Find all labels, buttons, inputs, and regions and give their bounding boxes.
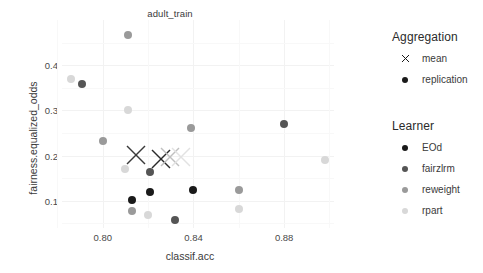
- gridline-vertical-minor: [239, 20, 240, 228]
- data-point-replication: [99, 137, 107, 145]
- dot-marker-icon: [394, 208, 416, 214]
- data-point-replication: [187, 124, 195, 132]
- plot-panel: [62, 20, 334, 228]
- legend-container: Aggregation meanreplication Learner EOdf…: [352, 0, 483, 273]
- gridline-horizontal-minor: [62, 43, 334, 44]
- dot-marker-icon: [394, 145, 416, 151]
- legend-item-replication[interactable]: replication: [394, 69, 468, 90]
- data-point-replication: [235, 205, 243, 213]
- dot-swatch: [402, 187, 408, 193]
- data-point-replication: [280, 120, 288, 128]
- data-point-replication: [124, 31, 132, 39]
- gridline-horizontal-minor: [62, 178, 334, 179]
- dot-marker-icon: [394, 166, 416, 172]
- gridline-vertical: [103, 20, 104, 228]
- y-tick-label: 0.3: [28, 105, 58, 116]
- data-point-replication: [124, 106, 132, 114]
- y-tick-label: 0.4: [28, 60, 58, 71]
- legend-aggregation-title: Aggregation: [392, 30, 468, 44]
- chart-root: adult_train fairness.equalized_odds clas…: [0, 0, 483, 273]
- y-tick-label: 0.1: [28, 195, 58, 206]
- gridline-vertical-minor: [57, 20, 58, 228]
- data-point-replication: [67, 75, 75, 83]
- dot-swatch: [402, 208, 408, 214]
- dot-swatch: [402, 145, 408, 151]
- data-point-mean: [124, 143, 148, 167]
- gridline-vertical-minor: [329, 20, 330, 228]
- x-tick-label: 0.88: [262, 232, 306, 243]
- dot-swatch: [402, 166, 408, 172]
- legend-item-label: replication: [416, 74, 468, 85]
- gridline-horizontal-minor: [62, 88, 334, 89]
- dot-swatch: [402, 77, 408, 83]
- legend-learner-rows: EOdfairzlrmreweightrpart: [394, 137, 460, 221]
- legend-item-mean[interactable]: mean: [394, 48, 468, 69]
- data-point-replication: [128, 196, 136, 204]
- x-tick-label: 0.84: [171, 232, 215, 243]
- gridline-horizontal-minor: [62, 223, 334, 224]
- x-axis-label: classif.acc: [60, 250, 320, 262]
- data-point-replication: [146, 188, 154, 196]
- legend-item-eod[interactable]: EOd: [394, 137, 460, 158]
- legend-learner: Learner EOdfairzlrmreweightrpart: [392, 119, 460, 221]
- gridline-vertical-minor: [148, 20, 149, 228]
- legend-item-label: reweight: [416, 184, 460, 195]
- data-point-replication: [189, 186, 197, 194]
- legend-item-label: mean: [416, 53, 447, 64]
- legend-item-label: rpart: [416, 205, 443, 216]
- data-point-replication: [321, 156, 329, 164]
- data-point-replication: [144, 211, 152, 219]
- legend-learner-title: Learner: [392, 119, 460, 133]
- dot-marker-icon: [394, 187, 416, 193]
- legend-item-fairzlrm[interactable]: fairzlrm: [394, 158, 460, 179]
- dot-marker-icon: [394, 77, 416, 83]
- y-tick-label: 0.2: [28, 150, 58, 161]
- legend-aggregation-rows: meanreplication: [394, 48, 468, 90]
- legend-item-label: EOd: [416, 142, 442, 153]
- data-point-replication: [78, 80, 86, 88]
- data-point-replication: [171, 216, 179, 224]
- data-point-replication: [128, 207, 136, 215]
- legend-item-label: fairzlrm: [416, 163, 455, 174]
- legend-item-rpart[interactable]: rpart: [394, 200, 460, 221]
- data-point-mean: [169, 145, 193, 169]
- legend-aggregation: Aggregation meanreplication: [392, 30, 468, 90]
- gridline-horizontal-minor: [62, 133, 334, 134]
- cross-marker-icon: [394, 54, 416, 63]
- x-tick-label: 0.80: [81, 232, 125, 243]
- data-point-replication: [235, 186, 243, 194]
- legend-item-reweight[interactable]: reweight: [394, 179, 460, 200]
